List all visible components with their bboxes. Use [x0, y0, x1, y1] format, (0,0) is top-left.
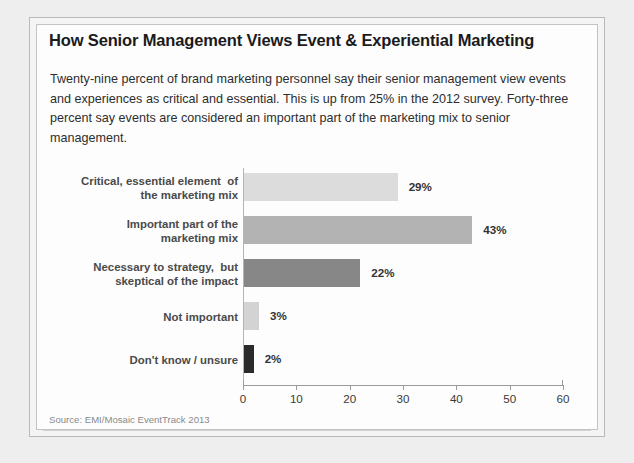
- bar-dont-know[interactable]: [243, 345, 254, 373]
- value-label-4: 2%: [265, 345, 282, 373]
- x-tick-label: 10: [281, 392, 311, 405]
- bar-not-important[interactable]: [243, 302, 259, 330]
- x-tick-mark: [243, 385, 244, 390]
- x-tick-mark: [350, 385, 351, 390]
- category-label-text: Critical, essential element of the marke…: [81, 174, 238, 202]
- category-label-3: Not important: [48, 302, 238, 332]
- x-tick-label: 40: [441, 392, 471, 405]
- x-tick-label: 60: [548, 392, 578, 405]
- category-label-text: Necessary to strategy, but skeptical of …: [93, 260, 238, 288]
- category-label-text: Important part of the marketing mix: [127, 217, 238, 245]
- category-label-0: Critical, essential element of the marke…: [48, 173, 238, 203]
- x-tick-mark: [563, 385, 564, 390]
- bar-critical-essential[interactable]: [243, 173, 398, 201]
- x-tick-label: 30: [388, 392, 418, 405]
- bar-important-part[interactable]: [243, 216, 472, 244]
- x-tick-label: 20: [335, 392, 365, 405]
- x-tick-mark: [403, 385, 404, 390]
- x-tick-mark: [510, 385, 511, 390]
- category-label-text: Don't know / unsure: [130, 353, 238, 367]
- source-note: Source: EMI/Mosaic EventTrack 2013: [49, 414, 210, 425]
- bar-chart: Critical, essential element of the marke…: [0, 0, 634, 463]
- bar-necessary-skeptical[interactable]: [243, 259, 360, 287]
- value-label-0: 29%: [409, 173, 432, 201]
- value-label-2: 22%: [371, 259, 394, 287]
- value-label-3: 3%: [270, 302, 287, 330]
- page-background: How Senior Management Views Event & Expe…: [0, 0, 634, 463]
- category-label-2: Necessary to strategy, but skeptical of …: [48, 259, 238, 289]
- value-label-1: 43%: [483, 216, 506, 244]
- category-label-4: Don't know / unsure: [48, 345, 238, 375]
- y-axis-line: [243, 168, 244, 386]
- category-label-1: Important part of the marketing mix: [48, 216, 238, 246]
- x-tick-label: 50: [495, 392, 525, 405]
- x-tick-mark: [296, 385, 297, 390]
- category-label-text: Not important: [163, 310, 238, 324]
- x-tick-label: 0: [228, 392, 258, 405]
- source-divider: [43, 430, 591, 431]
- x-tick-mark: [456, 385, 457, 390]
